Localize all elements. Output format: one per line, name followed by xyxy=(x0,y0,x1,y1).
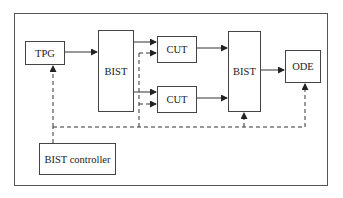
bist-input-label: BIST xyxy=(105,66,128,77)
cut-top-label: CUT xyxy=(167,44,188,55)
bist-output-block: BIST xyxy=(228,31,261,112)
ode-label: ODE xyxy=(292,61,314,72)
cut-top-block: CUT xyxy=(157,36,197,63)
tpg-block: TPG xyxy=(25,41,65,65)
bist-input-block: BIST xyxy=(98,30,134,112)
bist-controller-block: BIST controller xyxy=(39,143,116,175)
bist-controller-label: BIST controller xyxy=(44,154,110,165)
cut-bottom-label: CUT xyxy=(167,94,188,105)
ode-block: ODE xyxy=(285,50,321,83)
bist-output-label: BIST xyxy=(233,66,256,77)
cut-bottom-block: CUT xyxy=(157,86,197,113)
tpg-label: TPG xyxy=(35,48,55,59)
